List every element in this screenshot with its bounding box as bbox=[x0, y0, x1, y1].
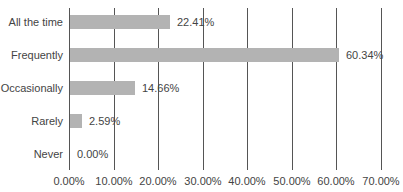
x-tick-label: 60.00% bbox=[317, 175, 354, 187]
value-label: 0.00% bbox=[77, 147, 108, 161]
gridline bbox=[381, 8, 382, 170]
bar bbox=[70, 48, 339, 62]
category-label: Frequently bbox=[11, 48, 63, 62]
category-label: All the time bbox=[9, 15, 63, 29]
gridline bbox=[292, 8, 293, 170]
gridline bbox=[336, 8, 337, 170]
x-tick-label: 40.00% bbox=[228, 175, 265, 187]
horizontal-bar-chart: 0.00%10.00%20.00%30.00%40.00%50.00%60.00… bbox=[0, 0, 403, 192]
value-label: 14.66% bbox=[142, 81, 179, 95]
category-label: Rarely bbox=[31, 114, 63, 128]
x-tick-label: 70.00% bbox=[362, 175, 399, 187]
bar bbox=[70, 114, 82, 128]
bar bbox=[70, 15, 170, 29]
gridline bbox=[247, 8, 248, 170]
value-label: 22.41% bbox=[177, 15, 214, 29]
value-label: 60.34% bbox=[346, 48, 383, 62]
x-tick-label: 20.00% bbox=[139, 175, 176, 187]
x-tick-label: 50.00% bbox=[273, 175, 310, 187]
value-label: 2.59% bbox=[89, 114, 120, 128]
x-tick-label: 0.00% bbox=[53, 175, 84, 187]
gridline bbox=[203, 8, 204, 170]
x-tick-label: 30.00% bbox=[184, 175, 221, 187]
bar bbox=[70, 81, 135, 95]
category-label: Occasionally bbox=[1, 81, 63, 95]
x-tick-label: 10.00% bbox=[95, 175, 132, 187]
category-label: Never bbox=[34, 147, 63, 161]
